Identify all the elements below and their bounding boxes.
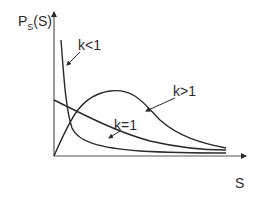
x-axis-label: S (235, 176, 244, 190)
distribution-chart (0, 0, 261, 203)
arrow-k-less (67, 52, 80, 65)
y-axis-label-sub: S (27, 22, 33, 32)
curve-k-greater-than-1 (54, 91, 226, 156)
y-axis-label: PS(S) (18, 14, 52, 28)
y-axis-label-main: P (18, 13, 27, 29)
label-k-equal: k=1 (114, 118, 137, 132)
arrow-k-greater (146, 98, 175, 111)
label-k-greater: k>1 (173, 84, 196, 98)
y-axis-label-rest: (S) (33, 13, 52, 29)
label-k-less: k<1 (78, 38, 101, 52)
curve-k-less-than-1 (61, 40, 226, 153)
